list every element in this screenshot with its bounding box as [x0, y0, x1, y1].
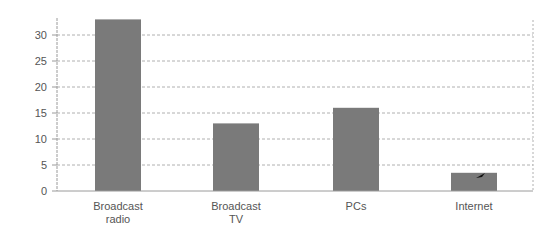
x-axis-labels: BroadcastradioBroadcastTVPCsInternet [93, 200, 492, 225]
y-tick-label: 15 [35, 107, 47, 119]
bar-chart: 051015202530 BroadcastradioBroadcastTVPC… [0, 0, 560, 234]
y-tick-label: 10 [35, 133, 47, 145]
bar [95, 19, 141, 191]
y-axis-ticks: 051015202530 [35, 29, 57, 197]
bar [333, 108, 379, 191]
x-category-label: Broadcast [211, 200, 261, 212]
bars [95, 19, 497, 191]
bar [451, 173, 497, 191]
y-tick-label: 25 [35, 55, 47, 67]
x-category-label: radio [106, 213, 130, 225]
y-tick-label: 0 [41, 185, 47, 197]
x-category-label: Internet [455, 200, 492, 212]
y-tick-label: 20 [35, 81, 47, 93]
x-category-label: Broadcast [93, 200, 143, 212]
y-tick-label: 5 [41, 159, 47, 171]
x-category-label: PCs [346, 200, 367, 212]
bar [213, 123, 259, 191]
y-tick-label: 30 [35, 29, 47, 41]
x-category-label: TV [229, 213, 244, 225]
